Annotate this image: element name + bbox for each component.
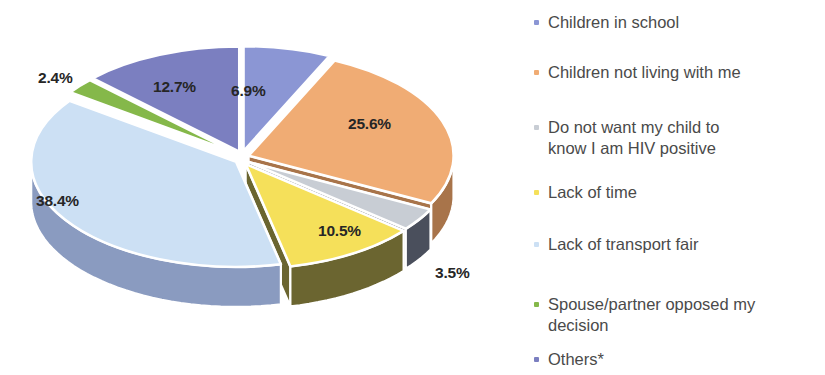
legend-item[interactable]: Children not living with me (534, 62, 741, 83)
legend-item-label: Spouse/partner opposed my decision (548, 294, 755, 336)
legend-marker-icon (534, 242, 539, 247)
legend-item-label: Lack of time (548, 182, 637, 203)
data-label-children-not-living: 25.6% (348, 115, 391, 133)
chart-legend: Children in schoolChildren not living wi… (534, 4, 825, 375)
data-label-lack-of-transport-fair: 38.4% (36, 192, 79, 210)
legend-marker-icon (534, 302, 539, 307)
pie-plot-area: 6.9% 25.6% 3.5% 10.5% 38.4% 2.4% 12.7% (0, 0, 520, 375)
data-label-lack-of-time: 10.5% (318, 222, 361, 240)
legend-item[interactable]: Children in school (534, 12, 679, 33)
legend-item[interactable]: Lack of transport fair (534, 234, 698, 255)
legend-marker-icon (534, 190, 539, 195)
pie-slice-tops (31, 46, 453, 267)
legend-item-label: Others* (548, 349, 604, 370)
data-label-spouse-partner-opposed: 2.4% (38, 69, 73, 87)
legend-marker-icon (534, 125, 539, 130)
legend-item-label: Lack of transport fair (548, 234, 698, 255)
legend-item-label: Children in school (548, 12, 679, 33)
legend-item[interactable]: Spouse/partner opposed my decision (534, 294, 755, 336)
legend-item-label: Do not want my child to know I am HIV po… (548, 117, 720, 159)
legend-marker-icon (534, 70, 539, 75)
pie-chart-graphic (0, 0, 520, 375)
legend-item-label: Children not living with me (548, 62, 741, 83)
legend-item[interactable]: Others* (534, 349, 604, 370)
legend-item[interactable]: Do not want my child to know I am HIV po… (534, 117, 720, 159)
legend-marker-icon (534, 357, 539, 362)
data-label-others: 12.7% (153, 78, 196, 96)
pie-chart-figure: 6.9% 25.6% 3.5% 10.5% 38.4% 2.4% 12.7% C… (0, 0, 825, 375)
legend-item[interactable]: Lack of time (534, 182, 637, 203)
legend-marker-icon (534, 20, 539, 25)
data-label-do-not-want-child-to-know: 3.5% (435, 264, 470, 282)
data-label-children-in-school: 6.9% (231, 82, 266, 100)
